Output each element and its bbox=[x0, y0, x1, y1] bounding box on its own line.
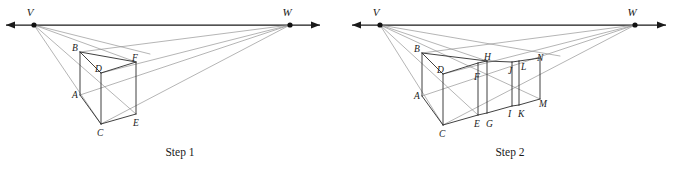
caption-step-2: Step 2 bbox=[470, 146, 550, 158]
rays-from-w-step2 bbox=[422, 25, 635, 125]
vanishing-point-v-step1 bbox=[31, 22, 36, 27]
label-v-step2: V bbox=[373, 6, 381, 18]
panel-step1: V W A B C D E F bbox=[6, 6, 320, 138]
label-c-step2: C bbox=[439, 129, 446, 139]
label-a-step2: A bbox=[413, 91, 420, 101]
rays-from-v-step1 bbox=[34, 25, 150, 124]
label-c-step1: C bbox=[97, 128, 104, 138]
box-edges-step1 bbox=[80, 52, 136, 124]
label-w-step1: W bbox=[282, 6, 292, 18]
slab-2-step2 bbox=[478, 61, 487, 115]
label-w-step2: W bbox=[627, 6, 637, 18]
label-b-step1: B bbox=[72, 43, 78, 53]
vanishing-point-w-step2 bbox=[632, 22, 637, 27]
caption-step-1: Step 1 bbox=[140, 146, 220, 158]
label-v-step1: V bbox=[27, 6, 35, 18]
horizon-arrow-left-step2 bbox=[352, 22, 361, 29]
diagram-canvas: V W A B C D E F bbox=[0, 0, 675, 169]
label-a-step1: A bbox=[71, 90, 78, 100]
label-l-step2: L bbox=[520, 62, 526, 72]
label-h-step2: H bbox=[483, 52, 492, 62]
rays-from-w-step1 bbox=[80, 25, 290, 124]
horizon-arrow-right-step1 bbox=[311, 22, 320, 29]
slab-4-step2 bbox=[512, 61, 519, 106]
label-k-step2: K bbox=[517, 109, 525, 119]
label-b-step2: B bbox=[414, 44, 420, 54]
vanishing-point-w-step1 bbox=[287, 22, 292, 27]
label-g-step2: G bbox=[486, 119, 493, 129]
label-n-step2: N bbox=[536, 53, 544, 63]
label-e-step1: E bbox=[132, 118, 139, 128]
label-f-step1: F bbox=[131, 53, 138, 63]
label-e-step2: E bbox=[473, 119, 480, 129]
label-i-step2: I bbox=[507, 109, 512, 119]
label-d-step1: D bbox=[94, 64, 102, 74]
label-d-step2: D bbox=[436, 65, 444, 75]
horizon-arrow-right-step2 bbox=[657, 22, 666, 29]
label-m-step2: M bbox=[538, 99, 548, 109]
vanishing-point-v-step2 bbox=[377, 22, 382, 27]
horizon-arrow-left-step1 bbox=[6, 22, 15, 29]
rays-from-v-step2 bbox=[380, 25, 560, 125]
panel-step2: V W A B C D E F G H I J K L M N bbox=[352, 6, 666, 139]
label-f-step2: F bbox=[473, 72, 480, 82]
perspective-figure: V W A B C D E F bbox=[0, 0, 675, 169]
